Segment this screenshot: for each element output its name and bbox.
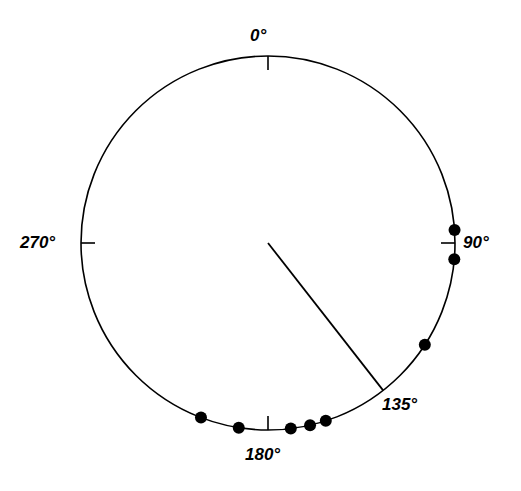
data-point xyxy=(419,339,431,351)
circular-plot-figure: 0° 90° 135° 180° 270° xyxy=(0,0,521,491)
data-point xyxy=(304,419,316,431)
mean-vector-line xyxy=(268,243,383,390)
polar-chart-canvas xyxy=(0,0,521,491)
data-point xyxy=(195,412,207,424)
axis-label-135deg: 135° xyxy=(382,396,417,413)
data-point xyxy=(448,253,460,265)
data-point xyxy=(449,224,461,236)
mean-direction-line xyxy=(268,243,383,390)
data-point xyxy=(320,415,332,427)
axis-label-270deg: 270° xyxy=(20,234,55,251)
axis-label-180deg: 180° xyxy=(245,446,280,463)
data-point xyxy=(285,423,297,435)
data-point-group xyxy=(195,224,461,435)
axis-label-0deg: 0° xyxy=(250,27,266,44)
data-point xyxy=(233,422,245,434)
axis-label-90deg: 90° xyxy=(463,234,489,251)
